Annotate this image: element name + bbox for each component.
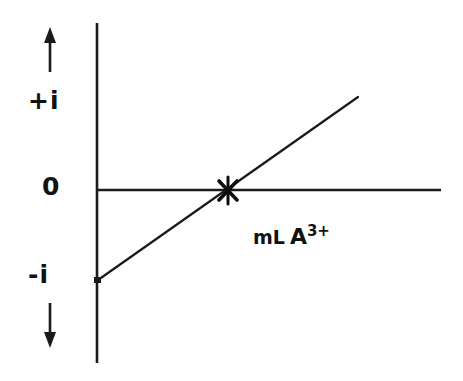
y-axis-label-positive: +i (28, 88, 60, 113)
x-axis-annotation: mLA3+ (253, 226, 330, 248)
figure-canvas: +i 0 -i mLA3+ (0, 0, 463, 381)
line-origin-marker (94, 277, 101, 283)
up-arrow-icon (44, 27, 56, 72)
y-axis-label-negative: -i (28, 262, 49, 287)
x-axis-species-label: A (290, 224, 307, 249)
y-axis-label-zero: 0 (42, 174, 59, 199)
plot-svg (0, 0, 463, 381)
down-arrow-icon (44, 303, 56, 348)
x-axis-unit-label: mL (253, 226, 285, 248)
x-axis-charge-label: 3+ (307, 222, 330, 240)
